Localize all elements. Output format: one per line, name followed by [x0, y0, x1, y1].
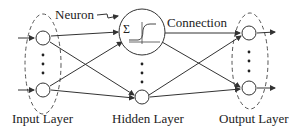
input-node	[36, 83, 50, 97]
hidden-layer-label: Hidden Layer	[112, 112, 184, 125]
output-node	[242, 81, 256, 95]
sum-symbol: Σ	[123, 23, 130, 35]
output-node	[242, 26, 256, 40]
connection-label: Connection	[167, 16, 227, 29]
input-layer-label: Input Layer	[12, 112, 73, 125]
hidden-node	[135, 90, 149, 104]
output-layer-label: Output Layer	[219, 112, 289, 125]
neuron-label: Neuron	[55, 8, 94, 21]
input-node	[36, 31, 50, 45]
